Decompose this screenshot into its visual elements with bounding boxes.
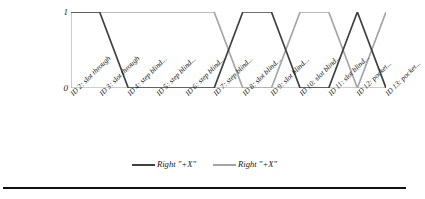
legend-entry[interactable]: Right "+X" bbox=[132, 160, 196, 169]
legend-label: Right "+X" bbox=[238, 160, 277, 169]
y-tick-label-0: 0 bbox=[46, 84, 68, 93]
legend-color-swatch bbox=[132, 164, 155, 166]
y-axis: 1 0 bbox=[42, 0, 68, 199]
bottom-divider bbox=[3, 187, 406, 189]
legend-color-swatch bbox=[213, 164, 236, 166]
chart-legend: Right "+X"Right "+X" bbox=[0, 160, 409, 169]
legend-entry[interactable]: Right "+X" bbox=[213, 160, 277, 169]
y-tick-label-1: 1 bbox=[46, 8, 68, 17]
legend-label: Right "+X" bbox=[157, 160, 196, 169]
